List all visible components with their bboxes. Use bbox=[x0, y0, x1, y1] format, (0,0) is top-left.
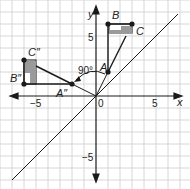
point-a2 bbox=[69, 81, 74, 86]
figure-a2b2c2-fill-top bbox=[25, 61, 31, 73]
grid bbox=[0, 0, 190, 189]
tick-y-5: 5 bbox=[88, 32, 94, 43]
label-a2: A″ bbox=[55, 87, 68, 99]
label-c2: C″ bbox=[28, 46, 41, 58]
label-b2: B″ bbox=[10, 72, 22, 84]
y-axis-down-arrow-icon bbox=[93, 174, 99, 182]
label-a: A bbox=[99, 61, 107, 73]
origin-label: 0 bbox=[98, 98, 104, 109]
x-axis-left-arrow-icon bbox=[10, 93, 18, 99]
angle-label: 90° bbox=[78, 65, 93, 76]
tick-x-5: 5 bbox=[152, 98, 158, 109]
point-c2 bbox=[21, 57, 26, 62]
coordinate-plane: y x 0 −5 5 5 −5 B C A C″ B″ A″ 90° bbox=[0, 0, 190, 189]
point-c bbox=[129, 21, 134, 26]
label-b: B bbox=[112, 9, 119, 21]
x-axis-label: x bbox=[176, 96, 183, 108]
line-y-equals-x bbox=[12, 14, 178, 180]
y-axis-up-arrow-icon bbox=[93, 6, 99, 14]
point-b2 bbox=[21, 81, 26, 86]
tick-x-neg5: −5 bbox=[30, 98, 42, 109]
tick-y-neg5: −5 bbox=[82, 152, 94, 163]
point-b bbox=[105, 21, 110, 26]
figure-abc-fill-bottom bbox=[109, 30, 132, 34]
label-c: C bbox=[136, 25, 144, 37]
